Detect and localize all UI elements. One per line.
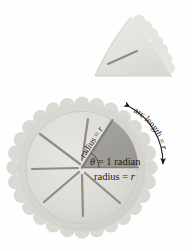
radius-horizontal-label-text: radius =: [94, 171, 131, 182]
theta-label: θ = 1 radian: [90, 156, 141, 167]
pie-slice-piece: [95, 15, 175, 76]
figure-canvas: arc length = r radius = r θ = 1 radian r…: [0, 0, 192, 251]
theta-label-text: = 1 radian: [95, 156, 141, 167]
cut-line-3: [32, 168, 78, 169]
cut-line-5: [82, 175, 83, 216]
radian-measure-figure: arc length = r radius = r θ = 1 radian r…: [0, 0, 192, 251]
whole-pie: [6, 96, 157, 238]
radius-horizontal-label: radius = r: [94, 171, 136, 182]
